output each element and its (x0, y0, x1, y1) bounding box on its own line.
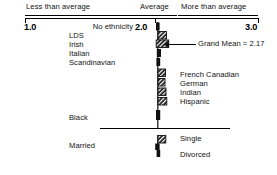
axis-tick-high (258, 18, 259, 23)
zone-underline-right (178, 15, 258, 16)
group-label-scandinavian: Scandinavian (20, 58, 182, 67)
marker-french-canadian (158, 69, 166, 77)
zone-label-less-than-average: Less than average (26, 2, 90, 11)
zone-underline-center (138, 15, 177, 16)
zone-underline-left (25, 15, 138, 16)
group-label-single: Single (180, 134, 201, 143)
tick-label-high: 3.0 (245, 22, 257, 32)
group-label-lds: LDS (20, 31, 182, 40)
marker-divorced (157, 150, 161, 157)
group-means-chart: Less than average Average More than aver… (0, 0, 277, 175)
group-label-married: Married (20, 141, 169, 150)
marker-no-ethnicity (156, 23, 160, 31)
marker-indian (158, 88, 166, 96)
zone-label-more-than-average: More than average (181, 2, 246, 11)
group-label-irish: Irish (20, 40, 182, 49)
marker-german (158, 79, 165, 87)
group-label-indian: Indian (180, 88, 201, 97)
group-label-no-ethnicity: No ethnicity (20, 22, 133, 31)
zone-label-average: Average (140, 2, 169, 11)
group-label-italian: Italian (20, 49, 182, 58)
group-label-hispanic: Hispanic (180, 97, 210, 106)
group-label-french-canadian: French Canadian (180, 70, 239, 79)
marker-hispanic (158, 98, 167, 106)
group-label-black: Black (20, 113, 169, 122)
grand-mean-annotation: Grand Mean = 2.17 (198, 39, 265, 48)
axis-baseline (25, 18, 259, 19)
group-label-divorced: Divorced (180, 150, 210, 159)
section-divider (100, 128, 230, 129)
group-label-german: German (180, 79, 208, 88)
